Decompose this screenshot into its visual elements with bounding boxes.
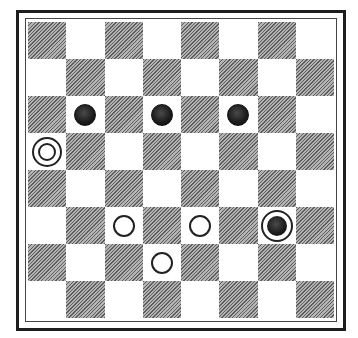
square-r7-c7[interactable] — [258, 244, 296, 281]
square-r8-c3[interactable] — [105, 281, 143, 318]
square-r5-c2[interactable] — [66, 170, 104, 207]
square-r5-c8[interactable] — [296, 170, 334, 207]
square-r4-c2[interactable] — [66, 133, 104, 170]
square-r6-c3[interactable] — [105, 207, 143, 244]
square-r5-c6[interactable] — [219, 170, 257, 207]
square-r3-c5[interactable] — [181, 96, 219, 133]
square-r8-c5[interactable] — [181, 281, 219, 318]
square-r2-c2[interactable] — [66, 59, 104, 96]
black-man-piece[interactable] — [74, 104, 96, 126]
square-r4-c3[interactable] — [105, 133, 143, 170]
square-r4-c5[interactable] — [181, 133, 219, 170]
black-man-piece[interactable] — [227, 104, 249, 126]
white-man-piece[interactable] — [189, 215, 211, 237]
square-r3-c6[interactable] — [219, 96, 257, 133]
black-king-piece[interactable] — [261, 210, 293, 242]
square-r2-c8[interactable] — [296, 59, 334, 96]
square-r1-c4[interactable] — [143, 22, 181, 59]
square-r2-c3[interactable] — [105, 59, 143, 96]
square-r1-c6[interactable] — [219, 22, 257, 59]
square-r5-c4[interactable] — [143, 170, 181, 207]
square-r1-c8[interactable] — [296, 22, 334, 59]
square-r6-c2[interactable] — [66, 207, 104, 244]
square-r8-c6[interactable] — [219, 281, 257, 318]
square-r8-c2[interactable] — [66, 281, 104, 318]
square-r8-c1[interactable] — [28, 281, 66, 318]
square-r6-c8[interactable] — [296, 207, 334, 244]
square-r7-c4[interactable] — [143, 244, 181, 281]
square-r7-c1[interactable] — [28, 244, 66, 281]
square-r5-c5[interactable] — [181, 170, 219, 207]
square-r1-c2[interactable] — [66, 22, 104, 59]
black-man-piece[interactable] — [151, 104, 173, 126]
square-r2-c6[interactable] — [219, 59, 257, 96]
white-man-piece[interactable] — [151, 252, 173, 274]
square-r2-c4[interactable] — [143, 59, 181, 96]
square-r3-c4[interactable] — [143, 96, 181, 133]
square-r6-c5[interactable] — [181, 207, 219, 244]
square-r7-c2[interactable] — [66, 244, 104, 281]
square-r7-c8[interactable] — [296, 244, 334, 281]
square-r2-c7[interactable] — [258, 59, 296, 96]
square-r5-c3[interactable] — [105, 170, 143, 207]
square-r1-c7[interactable] — [258, 22, 296, 59]
square-r6-c4[interactable] — [143, 207, 181, 244]
square-r8-c4[interactable] — [143, 281, 181, 318]
square-r8-c7[interactable] — [258, 281, 296, 318]
checkerboard — [28, 22, 334, 318]
square-r5-c1[interactable] — [28, 170, 66, 207]
square-r1-c3[interactable] — [105, 22, 143, 59]
square-r7-c3[interactable] — [105, 244, 143, 281]
square-r6-c6[interactable] — [219, 207, 257, 244]
white-man-piece[interactable] — [113, 215, 135, 237]
square-r6-c7[interactable] — [258, 207, 296, 244]
square-r4-c8[interactable] — [296, 133, 334, 170]
square-r7-c6[interactable] — [219, 244, 257, 281]
square-r1-c1[interactable] — [28, 22, 66, 59]
square-r2-c1[interactable] — [28, 59, 66, 96]
white-king-piece[interactable] — [32, 137, 62, 167]
square-r4-c7[interactable] — [258, 133, 296, 170]
board-frame-inner — [25, 18, 337, 322]
square-r4-c1[interactable] — [28, 133, 66, 170]
board-frame-outer — [16, 10, 346, 331]
square-r8-c8[interactable] — [296, 281, 334, 318]
square-r4-c4[interactable] — [143, 133, 181, 170]
square-r1-c5[interactable] — [181, 22, 219, 59]
square-r3-c2[interactable] — [66, 96, 104, 133]
square-r4-c6[interactable] — [219, 133, 257, 170]
square-r3-c7[interactable] — [258, 96, 296, 133]
square-r6-c1[interactable] — [28, 207, 66, 244]
square-r3-c1[interactable] — [28, 96, 66, 133]
square-r5-c7[interactable] — [258, 170, 296, 207]
square-r3-c8[interactable] — [296, 96, 334, 133]
square-r3-c3[interactable] — [105, 96, 143, 133]
square-r7-c5[interactable] — [181, 244, 219, 281]
square-r2-c5[interactable] — [181, 59, 219, 96]
